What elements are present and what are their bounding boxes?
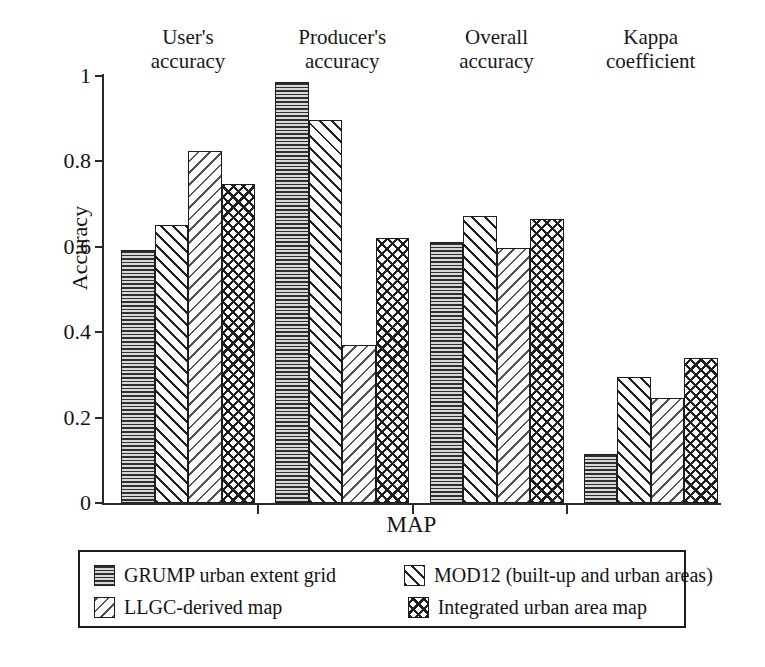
bar-group [275,76,409,503]
group-header-producers-accuracy: Producer's accuracy [252,26,432,73]
bar-group [584,76,718,503]
legend-swatch-diagonal-forward-icon [404,565,425,586]
bar-group [430,76,564,503]
legend: GRUMP urban extent grid MOD12 (built-up … [78,550,686,628]
legend-swatch-crosshatch-icon [408,597,429,618]
legend-swatch-diagonal-backward-icon [94,597,115,618]
legend-entry-integrated: Integrated urban area map [408,597,672,618]
bar [497,248,531,503]
y-axis-tick-label: 1 [31,63,91,89]
group-header-line1: User's [98,26,278,50]
legend-row: GRUMP urban extent grid MOD12 (built-up … [94,559,672,591]
bar [342,345,376,503]
group-header-line2: coefficient [561,50,741,74]
bar [222,184,256,503]
legend-label: MOD12 (built-up and urban areas) [434,565,713,585]
bar [309,120,343,503]
group-header-line1: Producer's [252,26,432,50]
legend-row: LLGC-derived map Integrated urban area m… [94,591,672,623]
y-axis-title: Accuracy [67,158,93,338]
bar [584,454,618,503]
plot-area [103,76,720,503]
bar [617,377,651,503]
legend-swatch-horizontal-lines-icon [94,565,115,586]
bar [530,219,564,503]
bar [188,151,222,503]
bar-group [121,76,255,503]
group-header-line2: accuracy [407,50,587,74]
legend-label: Integrated urban area map [438,597,647,617]
legend-label: GRUMP urban extent grid [124,565,336,585]
x-axis-title: MAP [103,512,720,538]
group-header-kappa-coefficient: Kappa coefficient [561,26,741,73]
group-header-line2: accuracy [98,50,278,74]
legend-label: LLGC-derived map [124,597,282,617]
group-header-line1: Kappa [561,26,741,50]
bar [155,225,189,503]
y-axis-tick-label: 0.2 [31,405,91,431]
group-header-line2: accuracy [252,50,432,74]
legend-entry-mod12: MOD12 (built-up and urban areas) [404,565,672,586]
legend-entry-llgc: LLGC-derived map [94,597,408,618]
bar [463,216,497,503]
bar [275,82,309,503]
group-header-overall-accuracy: Overall accuracy [407,26,587,73]
y-axis-tick-label: 0 [31,490,91,516]
bar [651,398,685,503]
bar [121,250,155,503]
bar [684,358,718,503]
bar-chart-figure: User's accuracy Producer's accuracy Over… [0,0,765,667]
bar [430,242,464,503]
legend-entry-grump: GRUMP urban extent grid [94,565,404,586]
group-header-line1: Overall [407,26,587,50]
group-header-users-accuracy: User's accuracy [98,26,278,73]
bar [376,238,410,503]
